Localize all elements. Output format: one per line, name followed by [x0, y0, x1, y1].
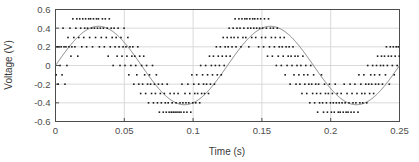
figure-background	[0, 0, 419, 162]
x-tick-label: 0.2	[324, 125, 337, 136]
x-tick-label: 0.05	[115, 125, 134, 136]
x-axis-title: Time (s)	[209, 146, 245, 157]
y-tick-label: 0.6	[37, 4, 50, 15]
y-tick-label: 0	[45, 60, 50, 71]
x-tick-label: 0	[53, 125, 58, 136]
y-tick-label: 0.2	[37, 41, 50, 52]
chart-figure: 00.050.10.150.20.25 -0.6-0.4-0.200.20.40…	[0, 0, 419, 162]
y-tick-label: -0.6	[34, 116, 50, 127]
x-tick-label: 0.15	[253, 125, 272, 136]
y-axis-title: Voltage (V)	[3, 40, 14, 89]
scatter-plot: 00.050.10.150.20.25 -0.6-0.4-0.200.20.40…	[0, 0, 419, 162]
y-tick-label: -0.4	[34, 97, 50, 108]
y-tick-label: -0.2	[34, 79, 50, 90]
x-tick-label: 0.25	[390, 125, 409, 136]
y-tick-label: 0.4	[37, 23, 50, 34]
x-tick-label: 0.1	[186, 125, 199, 136]
